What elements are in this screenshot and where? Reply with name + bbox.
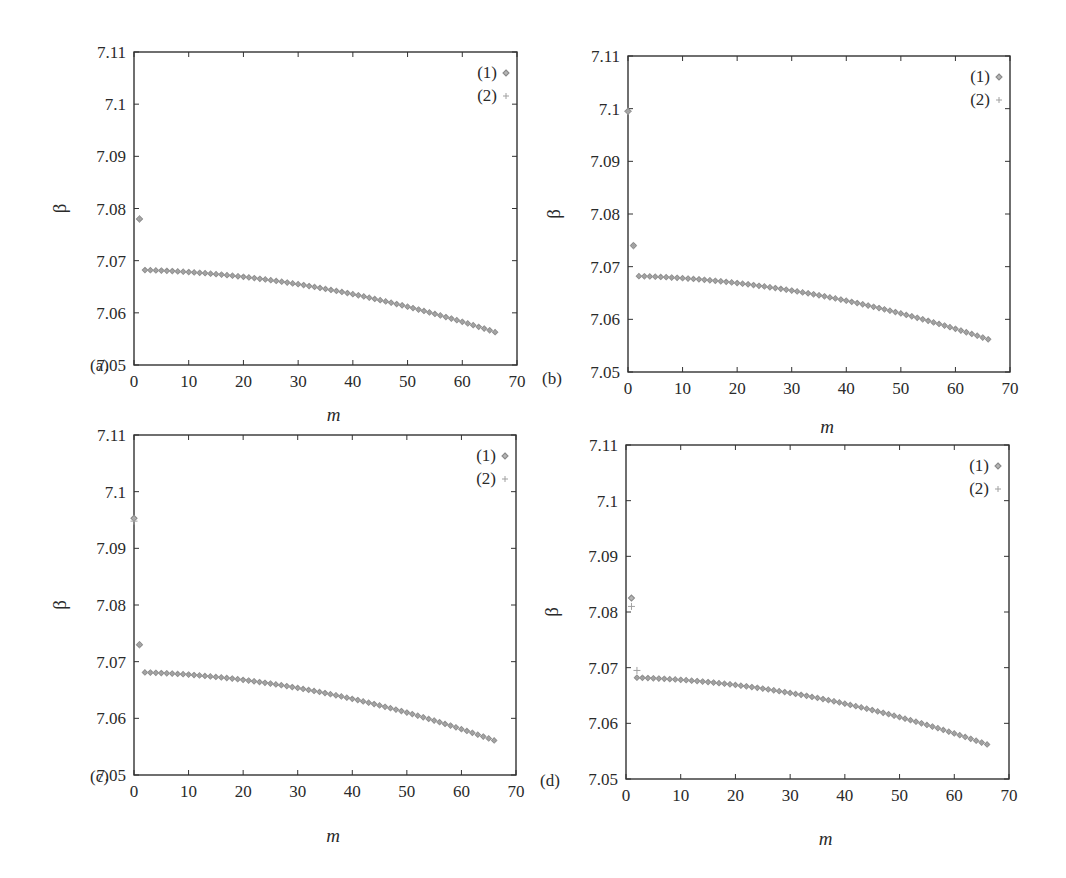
marker-plus bbox=[996, 97, 1002, 103]
marker-plus bbox=[251, 679, 256, 684]
chart-canvas: (a) β m (1) (2) 0102030405060707.057.067… bbox=[0, 0, 1066, 878]
marker-plus bbox=[285, 280, 290, 285]
y-tick-label: 7.06 bbox=[590, 310, 620, 329]
marker-plus bbox=[930, 724, 935, 729]
marker-plus bbox=[203, 271, 208, 276]
marker-plus bbox=[503, 93, 509, 99]
marker-plus bbox=[882, 307, 887, 312]
marker-plus bbox=[849, 299, 854, 304]
marker-plus bbox=[980, 335, 985, 340]
marker-plus bbox=[695, 678, 700, 683]
marker-plus bbox=[136, 215, 143, 222]
marker-plus bbox=[744, 684, 749, 689]
marker-diamond bbox=[995, 463, 1001, 469]
marker-plus bbox=[957, 733, 962, 738]
y-tick-label: 7.07 bbox=[590, 258, 620, 277]
marker-plus bbox=[816, 293, 821, 298]
marker-plus bbox=[684, 678, 689, 683]
marker-plus bbox=[164, 268, 169, 273]
marker-plus bbox=[328, 692, 333, 697]
x-tick-label: 10 bbox=[180, 782, 197, 801]
marker-plus bbox=[892, 713, 897, 718]
marker-plus bbox=[306, 283, 311, 288]
marker-plus bbox=[246, 275, 251, 280]
y-tick-label: 7.06 bbox=[96, 709, 126, 728]
marker-plus bbox=[669, 275, 674, 280]
marker-plus bbox=[142, 267, 147, 272]
y-tick-label: 7.07 bbox=[96, 653, 126, 672]
y-tick-label: 7.11 bbox=[589, 436, 618, 455]
marker-plus bbox=[947, 325, 952, 330]
marker-plus bbox=[909, 314, 914, 319]
marker-plus bbox=[860, 302, 865, 307]
marker-plus bbox=[323, 286, 328, 291]
marker-plus bbox=[213, 674, 218, 679]
marker-plus bbox=[689, 678, 694, 683]
plot-frame bbox=[626, 445, 1009, 779]
marker-plus bbox=[942, 323, 947, 328]
marker-plus bbox=[377, 703, 382, 708]
marker-plus bbox=[733, 682, 738, 687]
x-tick-label: 20 bbox=[727, 786, 744, 805]
x-tick-label: 20 bbox=[235, 782, 252, 801]
marker-plus bbox=[432, 718, 437, 723]
legend-label-1: (1) bbox=[476, 446, 496, 465]
marker-plus bbox=[946, 729, 951, 734]
marker-plus bbox=[798, 692, 803, 697]
x-axis-label: m bbox=[820, 416, 834, 437]
marker-plus bbox=[235, 677, 240, 682]
marker-plus bbox=[633, 667, 640, 674]
marker-diamond bbox=[503, 70, 509, 76]
legend-label-2: (2) bbox=[970, 90, 990, 109]
marker-plus bbox=[795, 289, 800, 294]
marker-plus bbox=[388, 706, 393, 711]
marker-plus bbox=[826, 698, 831, 703]
marker-plus bbox=[755, 685, 760, 690]
marker-plus bbox=[848, 702, 853, 707]
marker-plus bbox=[454, 318, 459, 323]
y-tick-label: 7.07 bbox=[588, 659, 618, 678]
x-tick-label: 50 bbox=[398, 782, 415, 801]
marker-plus bbox=[713, 278, 718, 283]
marker-plus bbox=[866, 303, 871, 308]
marker-plus bbox=[426, 716, 431, 721]
marker-plus bbox=[153, 268, 158, 273]
marker-plus bbox=[361, 699, 366, 704]
marker-plus bbox=[926, 318, 931, 323]
legend-label-2: (2) bbox=[969, 479, 989, 498]
marker-plus bbox=[902, 716, 907, 721]
y-tick-label: 7.09 bbox=[588, 547, 618, 566]
marker-plus bbox=[716, 681, 721, 686]
marker-plus bbox=[893, 309, 898, 314]
marker-plus bbox=[628, 603, 635, 610]
marker-plus bbox=[333, 693, 338, 698]
x-tick-label: 60 bbox=[453, 782, 470, 801]
marker-plus bbox=[208, 271, 213, 276]
marker-plus bbox=[985, 742, 990, 747]
marker-plus bbox=[442, 721, 447, 726]
marker-plus bbox=[974, 738, 979, 743]
marker-plus bbox=[460, 319, 465, 324]
legend-label-2: (2) bbox=[476, 469, 496, 488]
marker-plus bbox=[393, 707, 398, 712]
y-tick-label: 7.1 bbox=[597, 492, 618, 511]
marker-plus bbox=[383, 299, 388, 304]
marker-plus bbox=[707, 278, 712, 283]
marker-plus bbox=[438, 313, 443, 318]
x-tick-label: 20 bbox=[729, 379, 746, 398]
marker-plus bbox=[952, 731, 957, 736]
x-tick-label: 10 bbox=[674, 379, 691, 398]
x-tick-label: 50 bbox=[399, 372, 416, 391]
marker-plus bbox=[827, 295, 832, 300]
marker-plus bbox=[471, 323, 476, 328]
marker-plus bbox=[864, 706, 869, 711]
marker-plus bbox=[224, 675, 229, 680]
marker-plus bbox=[301, 686, 306, 691]
marker-plus bbox=[636, 274, 641, 279]
panel-b: (b) β m (1) (2) 0102030405060707.057.067… bbox=[542, 47, 1019, 437]
marker-plus bbox=[968, 736, 973, 741]
x-tick-label: 70 bbox=[1001, 786, 1018, 805]
x-tick-label: 30 bbox=[783, 379, 800, 398]
marker-plus bbox=[142, 670, 147, 675]
marker-plus bbox=[274, 278, 279, 283]
